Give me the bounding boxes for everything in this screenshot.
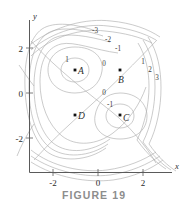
contour-label-0-upper: 0 (102, 60, 106, 68)
figure-19: y x 2 0 -2 -2 0 2 -3 -2 -1 1 0 0 1 2 3 -… (0, 0, 188, 214)
y-tick-label-0: 0 (19, 89, 24, 99)
point-marker-C (119, 114, 122, 117)
y-axis-label: y (32, 11, 37, 21)
point-marker-A (74, 69, 77, 72)
contour-label-2-right: 2 (148, 66, 152, 74)
x-tick-label-0: 0 (96, 178, 101, 188)
x-axis-label: x (174, 161, 179, 171)
contour-label-neg1-C: -1 (107, 101, 113, 109)
contour-label-1-A: 1 (65, 56, 69, 64)
point-label-B: B (118, 75, 124, 85)
contour-level-0-a (31, 41, 156, 163)
contour-outer-right-2 (143, 40, 171, 170)
contour-tail-upper-left-1 (19, 65, 34, 86)
x-tick-label-neg2: -2 (49, 178, 57, 188)
figure-caption: FIGURE 19 (0, 189, 188, 201)
x-tick-label-2: 2 (141, 178, 146, 188)
point-label-D: D (77, 111, 85, 121)
contour-label-neg2: -2 (105, 36, 111, 44)
contour-label-3-right: 3 (155, 74, 159, 82)
point-label-C: C (123, 113, 130, 123)
contour-plot: y x 2 0 -2 -2 0 2 -3 -2 -1 1 0 0 1 2 3 -… (0, 0, 188, 214)
contour-label-0-lower: 0 (102, 89, 106, 97)
contour-curves (17, 20, 176, 180)
point-marker-D (74, 114, 77, 117)
contour-label-neg3: -3 (92, 27, 98, 35)
contour-label-1-right: 1 (141, 58, 145, 66)
contour-label-neg1-top: -1 (115, 45, 121, 53)
point-label-A: A (77, 66, 84, 76)
y-tick-label-neg2: -2 (16, 134, 24, 144)
contour-outer-right-3 (148, 37, 176, 171)
y-tick-label-2: 2 (19, 44, 24, 54)
point-marker-B (119, 69, 122, 72)
